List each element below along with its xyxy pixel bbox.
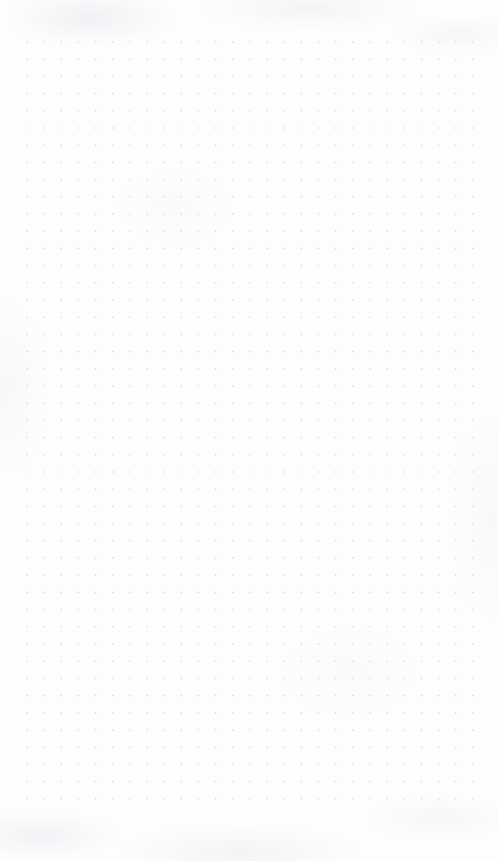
paper-texture-overlay	[0, 0, 498, 861]
dot-grid-page	[0, 0, 498, 861]
dot-grid-layer	[0, 0, 498, 861]
dot-grid-canvas	[0, 0, 498, 861]
